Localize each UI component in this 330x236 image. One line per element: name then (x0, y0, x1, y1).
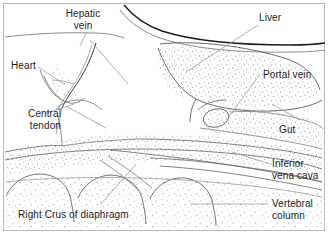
label-gut: Gut (279, 124, 295, 136)
label-vertebral-column: Vertebral column (272, 198, 313, 221)
label-central-tendon-line2: tendon (1, 120, 61, 132)
label-central-tendon-line1: Central (28, 108, 61, 119)
leader-hepatic-vein-long (90, 40, 128, 84)
label-hepatic-vein-line1: Hepatic (66, 8, 101, 19)
label-liver: Liver (259, 12, 281, 24)
heart-wall-stipple (46, 58, 92, 106)
label-inferior-vena-cava-line1: Inferior (272, 158, 304, 169)
label-portal-vein-line1: Portal vein (263, 69, 311, 80)
label-vertebral-column-line2: column (272, 210, 313, 222)
leader-hepatic-vein-cross (66, 106, 106, 128)
label-heart: Heart (11, 60, 36, 72)
label-central-tendon: Central tendon (1, 108, 61, 131)
label-hepatic-vein-line2: vein (48, 20, 118, 32)
label-inferior-vena-cava: Inferior vena cava (272, 158, 319, 181)
label-gut-line1: Gut (279, 124, 295, 135)
anatomy-figure: Hepatic vein Liver Heart Portal vein Cen… (0, 0, 330, 236)
diaphragm-dome-outline (124, 5, 325, 45)
label-inferior-vena-cava-line2: vena cava (272, 170, 319, 182)
label-portal-vein: Portal vein (263, 69, 311, 81)
label-vertebral-column-line1: Vertebral (272, 198, 313, 209)
label-right-crus-line1: Right Crus of diaphragm (18, 209, 129, 220)
leader-hepatic-vein (80, 33, 86, 46)
label-hepatic-vein: Hepatic vein (48, 8, 118, 31)
label-liver-line1: Liver (259, 12, 281, 23)
label-heart-line1: Heart (11, 60, 36, 71)
label-right-crus-of-diaphragm: Right Crus of diaphragm (18, 209, 129, 221)
